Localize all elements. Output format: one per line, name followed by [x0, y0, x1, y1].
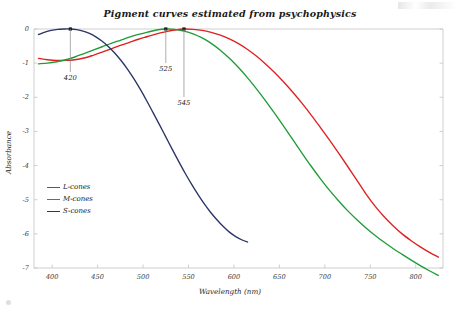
chart-legend: L-conesM-conesS-cones	[47, 181, 93, 217]
plot-area	[0, 0, 460, 311]
curve-series	[39, 29, 439, 276]
y-tick--6: -6	[0, 230, 29, 238]
y-tick--1: -1	[0, 59, 29, 67]
x-tick-500: 500	[137, 273, 150, 281]
x-tick-700: 700	[319, 273, 332, 281]
y-tick--7: -7	[0, 264, 29, 272]
legend-item-s-cones[interactable]: S-cones	[47, 205, 93, 217]
chart-figure: Pigment curves estimated from psychophys…	[0, 0, 460, 311]
axis-ticks	[34, 29, 443, 268]
y-axis-title: Absorbance	[4, 131, 13, 174]
legend-label: S-cones	[63, 207, 91, 215]
legend-label: L-cones	[63, 183, 90, 191]
x-tick-400: 400	[46, 273, 59, 281]
x-axis-title: Wavelength (nm)	[0, 287, 460, 296]
legend-item-l-cones[interactable]: L-cones	[47, 181, 93, 193]
x-tick-450: 450	[91, 273, 104, 281]
x-tick-650: 650	[273, 273, 286, 281]
legend-label: M-cones	[63, 195, 93, 203]
x-tick-750: 750	[364, 273, 377, 281]
legend-swatch-icon-l-cones	[47, 187, 60, 188]
peak-label-545: 545	[177, 99, 190, 107]
y-tick--5: -5	[0, 196, 29, 204]
y-tick-0: 0	[0, 25, 29, 33]
legend-swatch-icon-m-cones	[47, 199, 60, 200]
legend-item-m-cones[interactable]: M-cones	[47, 193, 93, 205]
peak-label-420: 420	[64, 74, 77, 82]
x-tick-800: 800	[409, 273, 422, 281]
curve-l-cones	[39, 29, 439, 257]
peak-label-525: 525	[159, 65, 172, 73]
x-tick-550: 550	[182, 273, 195, 281]
legend-swatch-icon-s-cones	[47, 211, 60, 212]
x-tick-600: 600	[228, 273, 241, 281]
axis-frame	[34, 29, 443, 268]
y-tick--2: -2	[0, 93, 29, 101]
